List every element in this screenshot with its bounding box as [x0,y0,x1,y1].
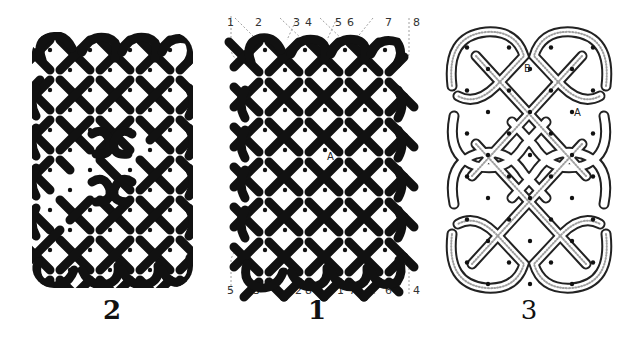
figure-3-caption: 3 [509,295,549,325]
figure-1-caption: 1 [297,295,337,325]
knot-panel-1-graphic: 1 2 3 4 5 6 7 8 5 3 2 8 1 7 6 4 [225,10,420,300]
guide-label: 6 [347,16,354,29]
figure-1-knot-panel: 1 2 3 4 5 6 7 8 5 3 2 8 1 7 6 4 [225,10,420,300]
guide-label: 3 [293,16,300,29]
figure-3-knot-panel: B A [446,26,614,294]
guide-label: 5 [227,284,234,297]
guide-label: 7 [385,16,392,29]
top-guide-labels: 1 2 3 4 5 6 7 8 [227,16,420,29]
figure-2-caption: 2 [92,295,132,325]
guide-label: 1 [227,16,234,29]
guide-label: 5 [335,16,342,29]
point-label-a: A [327,151,334,162]
knot-panel-3-graphic: B A [446,26,614,294]
guide-label: 4 [305,16,312,29]
guide-label: 2 [255,16,262,29]
point-label-a: A [574,107,581,118]
point-label-b: B [524,63,531,74]
guide-label: 8 [413,16,420,29]
figure-2-knot-panel [30,30,195,290]
knot-panel-2-graphic [30,30,195,290]
guide-label: 4 [413,284,420,297]
